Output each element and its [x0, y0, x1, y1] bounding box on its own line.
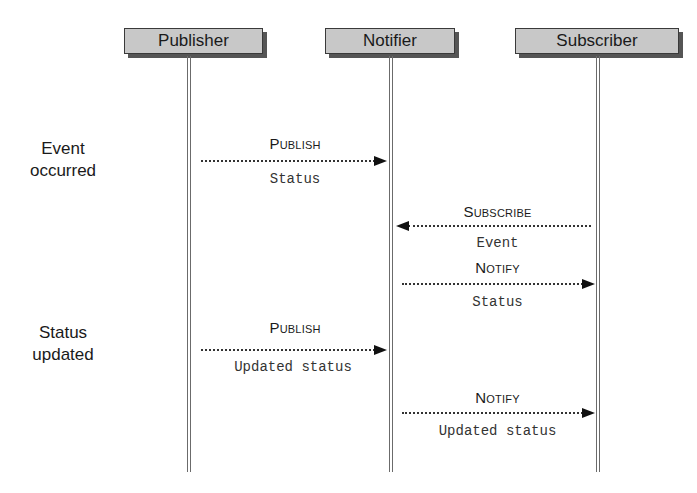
event-label-line: Event: [8, 138, 118, 160]
arrow-notifier-to-subscriber: [402, 279, 595, 289]
arrowhead-right-icon: [582, 279, 595, 289]
event-label-line: occurred: [8, 160, 118, 182]
dotted-line: [201, 349, 375, 351]
arrow-publisher-to-notifier: [201, 156, 387, 166]
message-subscribe-param: Event: [400, 235, 595, 251]
arrowhead-right-icon: [374, 156, 387, 166]
dotted-line: [402, 283, 583, 285]
actor-notifier: Notifier: [325, 28, 455, 54]
arrowhead-right-icon: [374, 345, 387, 355]
arrow-publisher-to-notifier-updated: [201, 345, 387, 355]
event-occurred-label: Event occurred: [8, 138, 118, 182]
dotted-line: [402, 412, 583, 414]
actor-publisher-label: Publisher: [158, 31, 229, 51]
arrow-subscriber-to-notifier: [396, 221, 591, 231]
actor-subscriber-label: Subscriber: [556, 31, 637, 51]
message-publish-updated-name: Publish: [200, 319, 390, 336]
message-notify-updated-name: Notify: [400, 389, 595, 406]
dotted-line: [408, 225, 591, 227]
message-notify-updated-param: Updated status: [400, 423, 595, 439]
lifeline-publisher: [187, 56, 191, 472]
lifeline-notifier: [389, 56, 393, 472]
message-publish-param: Status: [200, 171, 390, 187]
actor-publisher: Publisher: [124, 28, 263, 54]
actor-subscriber: Subscriber: [515, 28, 679, 54]
dotted-line: [201, 160, 375, 162]
arrowhead-left-icon: [396, 221, 409, 231]
arrow-notifier-to-subscriber-updated: [402, 408, 595, 418]
actor-notifier-label: Notifier: [363, 31, 417, 51]
message-subscribe-name: Subscribe: [400, 203, 595, 220]
event-label-line: Status: [8, 322, 118, 344]
message-notify-param: Status: [400, 294, 595, 310]
message-publish-updated-param: Updated status: [198, 359, 388, 375]
arrowhead-right-icon: [582, 408, 595, 418]
lifeline-subscriber: [596, 56, 600, 472]
message-publish-name: Publish: [200, 135, 390, 152]
event-label-line: updated: [8, 344, 118, 366]
message-notify-name: Notify: [400, 259, 595, 276]
status-updated-label: Status updated: [8, 322, 118, 366]
